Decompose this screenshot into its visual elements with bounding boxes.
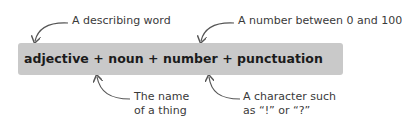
arrow-noun — [97, 77, 130, 99]
arrow-adjective — [35, 23, 68, 41]
formula-box: adjective + noun + number + punctuation — [18, 43, 343, 75]
arrow-punctuation — [209, 77, 240, 99]
formula-text: adjective + noun + number + punctuation — [24, 51, 323, 66]
annotation-noun: The name of a thing — [134, 90, 189, 118]
annotation-number: A number between 0 and 100 — [238, 14, 402, 28]
arrow-number — [201, 23, 234, 41]
annotation-punctuation-line1: A character such — [243, 90, 336, 104]
annotation-punctuation-line2: as “!” or “?” — [243, 104, 336, 118]
annotation-noun-line1: The name — [134, 90, 189, 104]
annotation-noun-line2: of a thing — [134, 104, 189, 118]
annotation-adjective: A describing word — [72, 14, 171, 28]
annotation-punctuation: A character such as “!” or “?” — [243, 90, 336, 118]
